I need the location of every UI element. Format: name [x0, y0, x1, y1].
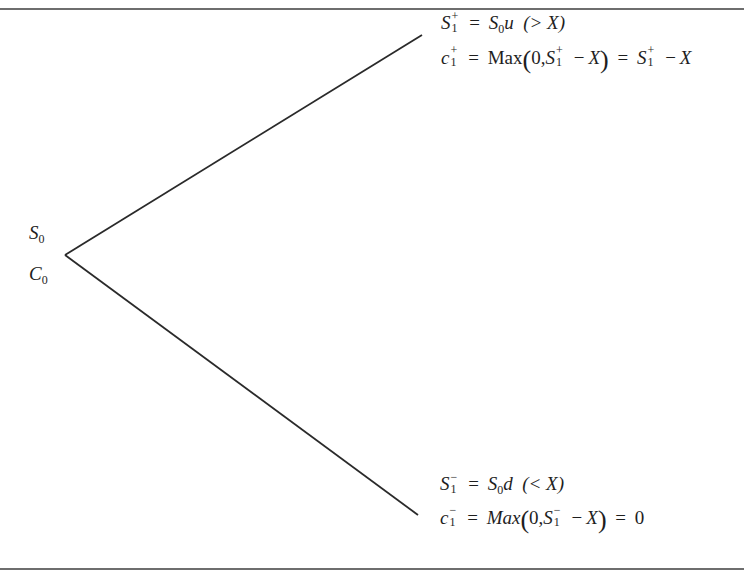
root-call-sub: 0	[42, 273, 48, 287]
down-rhs-var: S	[488, 473, 498, 494]
minus-sign-2: −	[661, 47, 680, 68]
up-stock-supsub: +1	[451, 13, 461, 32]
up-call-var: c	[441, 47, 449, 68]
result-supsub: +1	[646, 47, 656, 66]
result-var: S	[637, 47, 647, 68]
equals-sign: =	[463, 507, 482, 528]
strike-var: X	[588, 47, 600, 68]
up-call-sub: 1	[450, 56, 456, 68]
down-stock-var: S	[440, 473, 450, 494]
left-paren: (	[522, 45, 531, 74]
down-factor: d	[503, 473, 513, 494]
strike-var: X	[586, 507, 598, 528]
equals-sign: =	[464, 47, 483, 68]
max-function: Max	[487, 507, 521, 528]
max-arg-zero: 0,	[531, 47, 545, 68]
max-arg-sub: 1	[556, 56, 562, 68]
up-stock-var: S	[441, 12, 451, 33]
down-call-sub: 1	[449, 516, 455, 528]
root-stock-label: S0	[29, 223, 45, 245]
equals-sign-2: =	[611, 507, 630, 528]
equals-sign: =	[464, 473, 483, 494]
result-sub: 1	[647, 56, 653, 68]
up-node-call-equation: c+1 = Max(0,S+1 −X) = S+1 −X	[441, 47, 691, 73]
right-paren: )	[600, 45, 609, 74]
right-paren: )	[598, 505, 607, 534]
down-node-stock-equation: S−1 = S0d (< X)	[440, 474, 564, 496]
down-call-supsub: −1	[448, 507, 458, 526]
result-strike-var: X	[680, 47, 692, 68]
up-factor: u	[504, 12, 514, 33]
down-node-call-equation: c−1 = Max(0,S−1 −X) = 0	[440, 507, 644, 533]
minus-sign: −	[570, 47, 589, 68]
max-arg-var: S	[543, 507, 553, 528]
result-value: 0	[635, 507, 645, 528]
up-node-stock-equation: S+1 = S0u (> X)	[441, 13, 565, 35]
binomial-tree-figure: S0 C0 S+1 = S0u (> X) c+1 = Max(0,S+1 −X…	[0, 0, 744, 583]
root-call-var: C	[29, 263, 42, 284]
down-condition: (< X)	[522, 473, 564, 494]
max-arg-supsub: +1	[555, 47, 565, 66]
equals-sign: =	[465, 12, 484, 33]
root-stock-sub: 0	[39, 232, 45, 246]
max-arg-supsub: −1	[553, 507, 563, 526]
equals-sign-2: =	[613, 47, 632, 68]
max-arg-zero: 0,	[529, 507, 543, 528]
left-paren: (	[520, 505, 529, 534]
down-stock-sub: 1	[451, 483, 457, 495]
minus-sign: −	[568, 507, 587, 528]
root-call-label: C0	[29, 264, 48, 286]
up-rhs-var: S	[489, 12, 499, 33]
max-arg-sub: 1	[554, 516, 560, 528]
up-condition: (> X)	[523, 12, 565, 33]
root-stock-var: S	[29, 222, 39, 243]
up-stock-sub: 1	[452, 22, 458, 34]
down-branch-line	[65, 255, 418, 515]
up-call-supsub: +1	[449, 47, 459, 66]
max-function: Max	[488, 47, 523, 68]
up-branch-line	[65, 35, 422, 255]
max-arg-var: S	[545, 47, 555, 68]
tree-edges	[0, 0, 744, 583]
down-call-var: c	[440, 507, 448, 528]
down-stock-supsub: −1	[450, 474, 460, 493]
